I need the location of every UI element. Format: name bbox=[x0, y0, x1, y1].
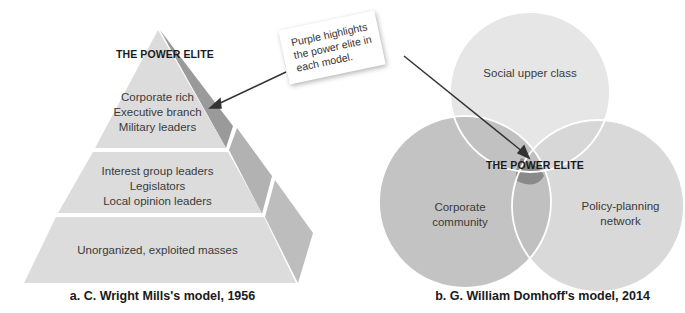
mills-power-elite-title: THE POWER ELITE bbox=[116, 48, 214, 60]
venn-label-policy-planning-network: Policy-planning network bbox=[568, 199, 673, 229]
mills-caption: a. C. Wright Mills's model, 1956 bbox=[40, 289, 285, 303]
domhoff-caption: b. G. William Domhoff's model, 2014 bbox=[420, 289, 665, 303]
venn-label-social-upper-class: Social upper class bbox=[470, 66, 590, 81]
mills-tier-2-label: Interest group leaders Legislators Local… bbox=[80, 164, 235, 209]
venn-label-corporate-community: Corporate community bbox=[415, 200, 505, 230]
domhoff-power-elite-title: THE POWER ELITE bbox=[486, 159, 584, 171]
callout-text: Purple highlights the power elite in eac… bbox=[290, 20, 373, 73]
mills-tier-3-label: Unorganized, exploited masses bbox=[60, 243, 255, 258]
mills-tier-1-label: Corporate rich Executive branch Military… bbox=[85, 90, 230, 135]
